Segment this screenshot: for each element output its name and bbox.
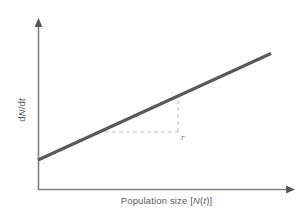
slope-label-r: r	[181, 132, 185, 142]
y-axis-label: dN/dt	[16, 98, 27, 121]
chart-canvas	[0, 0, 307, 214]
growth-rate-line	[38, 54, 271, 161]
y-axis-label-d: d	[16, 116, 27, 121]
y-axis-arrowhead-icon	[35, 18, 43, 27]
population-growth-chart: r Population size [N(t)] dN/dt	[0, 0, 307, 214]
x-axis-label-variable: N	[193, 195, 200, 206]
x-axis-arrowhead-icon	[286, 186, 295, 194]
y-axis-label-variable: N	[16, 109, 27, 116]
y-axis-label-slash-d: /d	[16, 101, 27, 109]
x-axis-label: Population size [N(t)]	[0, 195, 307, 206]
x-axis-label-close-paren: )]	[206, 195, 212, 206]
y-axis-label-wrapper: dN/dt	[14, 75, 28, 145]
y-axis-label-time-variable: t	[16, 98, 27, 101]
x-axis-label-prefix: Population size [	[121, 195, 193, 206]
